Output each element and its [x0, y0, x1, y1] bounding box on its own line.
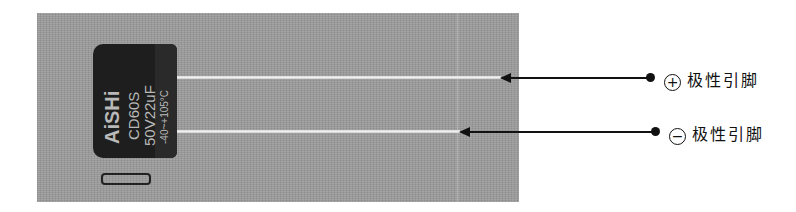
positive-arrow-icon	[500, 73, 511, 83]
photo-seam	[457, 13, 458, 202]
positive-leader-line	[508, 77, 650, 79]
positive-pin-label: +极性引脚	[664, 67, 759, 91]
negative-dot-icon	[651, 127, 660, 136]
negative-arrow-icon	[459, 127, 470, 137]
negative-lead	[175, 130, 460, 133]
capacitor-body: AiSHi CD60S 50V22uF -40~+105°C	[93, 44, 177, 158]
capacitor-base	[101, 173, 151, 185]
capacitor-rating: 50V22uF	[141, 85, 158, 146]
capacitor-photo: AiSHi CD60S 50V22uF -40~+105°C	[37, 13, 519, 202]
positive-lead	[175, 76, 501, 79]
negative-leader-line	[467, 131, 655, 133]
capacitor-brand: AiSHi	[101, 91, 124, 144]
plus-circle-icon: +	[664, 74, 681, 91]
capacitor-series: CD60S	[125, 92, 142, 140]
capacitor-temp: -40~+105°C	[159, 90, 170, 144]
minus-circle-icon: −	[669, 128, 686, 145]
negative-pin-label: −极性引脚	[669, 121, 764, 145]
positive-dot-icon	[646, 73, 655, 82]
